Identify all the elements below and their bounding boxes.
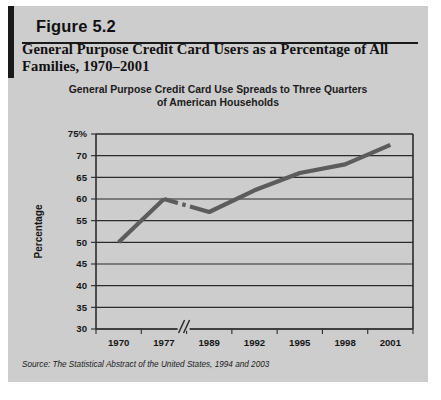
- chart-y-tick-labels: 75%706560555045403530: [68, 128, 88, 334]
- chart-gridlines: [96, 134, 413, 329]
- svg-text:1977: 1977: [153, 337, 174, 348]
- chart-subtitle: General Purpose Credit Card Use Spreads …: [18, 84, 418, 109]
- figure-accent-bar: [8, 6, 14, 78]
- chart-y-axis-label: Percentage: [33, 204, 44, 258]
- svg-text:1992: 1992: [244, 337, 265, 348]
- svg-text:1970: 1970: [108, 337, 129, 348]
- svg-text:60: 60: [76, 193, 87, 204]
- chart-subtitle-line-1: General Purpose Credit Card Use Spreads …: [18, 84, 418, 97]
- svg-text:70: 70: [76, 150, 87, 161]
- chart-axis-break-marker: [178, 320, 190, 333]
- figure-number-label: Figure 5.2: [36, 17, 116, 36]
- svg-text:65: 65: [76, 172, 87, 183]
- svg-text:35: 35: [76, 302, 87, 313]
- chart-x-tick-labels: 1970197719891992199519982001: [108, 337, 402, 348]
- figure-title: General Purpose Credit Card Users as a P…: [22, 41, 404, 75]
- figure-source-note: Source: The Statistical Abstract of the …: [22, 360, 414, 369]
- figure-container: Figure 5.2 General Purpose Credit Card U…: [8, 6, 428, 382]
- svg-text:50: 50: [76, 237, 87, 248]
- svg-text:2001: 2001: [380, 337, 402, 348]
- figure-label-row: Figure 5.2: [22, 12, 414, 42]
- svg-text:55: 55: [76, 215, 87, 226]
- chart-subtitle-line-2: of American Households: [18, 97, 418, 110]
- svg-text:30: 30: [76, 323, 87, 334]
- svg-text:75%: 75%: [68, 128, 88, 139]
- svg-text:1998: 1998: [334, 337, 356, 348]
- line-chart-svg: 75%706560555045403530 197019771989199219…: [8, 110, 428, 350]
- chart-plot-area: 75%706560555045403530 197019771989199219…: [8, 110, 428, 350]
- svg-text:45: 45: [76, 258, 87, 269]
- chart-data-series: [119, 145, 391, 243]
- chart-axis-frame: [96, 134, 413, 329]
- svg-text:1989: 1989: [199, 337, 220, 348]
- svg-text:1995: 1995: [289, 337, 311, 348]
- svg-text:40: 40: [76, 280, 87, 291]
